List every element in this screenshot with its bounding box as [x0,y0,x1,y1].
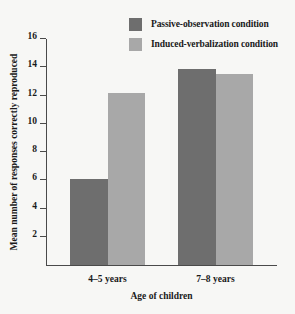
y-axis-tick-label: 2 [32,230,37,240]
legend-label-passive-observation: Passive-observation condition [151,20,269,30]
bar [178,69,216,265]
plot-area: 246810121416 4–5 years7–8 years Age of c… [46,39,277,265]
x-axis-category-label: 4–5 years [56,275,159,285]
legend-item-passive-observation: Passive-observation condition [129,16,289,33]
y-axis-title-text: Mean number of responses correctly repro… [8,39,21,265]
x-axis-category-label: 7–8 years [164,275,267,285]
y-axis-tick-label: 6 [32,173,37,183]
bar [108,93,146,265]
y-axis-tick: 12 [40,95,46,96]
x-axis-line [46,265,277,266]
bar [216,74,254,265]
bar-chart-figure: Passive-observation condition Induced-ve… [0,0,295,314]
y-axis-tick: 4 [40,208,46,209]
bar [70,179,108,265]
y-axis-tick-label: 4 [32,202,37,212]
y-axis-tick-label: 8 [32,145,37,155]
y-axis-tick-label: 14 [28,60,38,70]
y-axis-title: Mean number of responses correctly repro… [8,0,21,39]
y-axis-tick: 8 [40,151,46,152]
y-axis-tick: 6 [40,179,46,180]
x-axis-title: Age of children [46,292,277,302]
y-axis-tick-label: 12 [28,89,38,99]
legend-swatch-passive-observation [129,18,142,31]
y-axis-tick: 2 [40,236,46,237]
y-axis-line [46,39,47,265]
y-axis-tick: 14 [40,66,46,67]
y-axis-tick-label: 16 [28,32,38,42]
y-axis-tick: 16 [40,38,46,39]
y-axis-tick-label: 10 [28,117,38,127]
y-axis-tick: 10 [40,123,46,124]
